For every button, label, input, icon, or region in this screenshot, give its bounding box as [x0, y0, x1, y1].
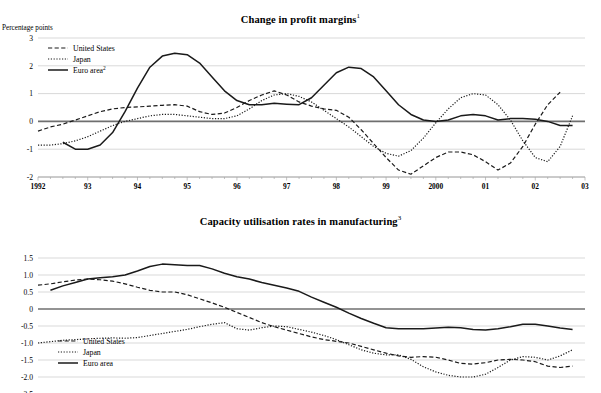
series-line-euro-area — [50, 264, 572, 330]
y-axis-tick-label: 3 — [29, 33, 33, 42]
y-axis-tick-label: -1.0 — [21, 338, 33, 347]
x-axis-tick-label: 03 — [581, 182, 589, 191]
x-axis-tick-label: 99 — [382, 182, 390, 191]
y-axis-tick-label: 0 — [29, 304, 33, 313]
panel-title-profit-margins: Change in profit margins1 — [0, 10, 601, 26]
x-axis-tick-label: 1992 — [31, 182, 46, 191]
y-axis-tick-label: -1 — [27, 144, 34, 153]
y-axis-tick-label: -1.5 — [21, 355, 33, 364]
series-line-united-states — [38, 90, 560, 173]
x-axis-tick-label: 94 — [134, 182, 142, 191]
legend-label-japan: Japan — [73, 54, 91, 63]
panel-capacity-utilisation: Capacity utilisation rates in manufactur… — [0, 212, 601, 393]
panel-title-text: Change in profit margins — [241, 14, 357, 25]
panel-title-footnote-marker: 3 — [398, 214, 402, 222]
y-axis-tick-label: -2.5 — [21, 389, 33, 392]
chart-svg-capacity-utilisation: 1.51.00.50-0.5-1.0-1.5-2.0-2.5United Sta… — [0, 228, 601, 393]
y-axis-tick-label: 1 — [29, 89, 33, 98]
legend-label-euro-area: Euro area — [83, 358, 114, 367]
cut-off-header-title — [0, 0, 601, 1]
chart-svg-profit-margins: 3210-1-21992939495969798992000010203Unit… — [0, 26, 601, 191]
x-axis-tick-label: 2000 — [428, 182, 443, 191]
y-axis-tick-label: -0.5 — [21, 321, 33, 330]
x-axis-tick-label: 96 — [233, 182, 241, 191]
series-line-euro-area — [63, 53, 573, 149]
y-axis-tick-label: 2 — [29, 61, 33, 70]
x-axis-tick-label: 97 — [283, 182, 291, 191]
y-axis-tick-label: 0 — [29, 117, 33, 126]
legend-label-japan: Japan — [83, 347, 101, 356]
legend-label-united-states: United States — [73, 43, 115, 52]
panel-title-capacity-utilisation: Capacity utilisation rates in manufactur… — [0, 212, 601, 228]
panel-title-text: Capacity utilisation rates in manufactur… — [200, 216, 398, 227]
panel-profit-margins: Change in profit margins1 Percentage poi… — [0, 10, 601, 191]
y-axis-tick-label: 0.5 — [24, 287, 34, 296]
x-axis-tick-label: 01 — [482, 182, 490, 191]
legend-label-euro-area: Euro area2 — [73, 64, 106, 74]
legend-label-united-states: United States — [83, 336, 125, 345]
y-axis-unit-label: Percentage points — [2, 24, 53, 32]
chart-page: Change in profit margins1 Percentage poi… — [0, 0, 601, 393]
x-axis-tick-label: 98 — [333, 182, 341, 191]
panel-title-footnote-marker: 1 — [357, 12, 361, 20]
x-axis-tick-label: 02 — [532, 182, 540, 191]
series-line-japan — [38, 322, 573, 376]
y-axis-tick-label: -2 — [27, 172, 34, 181]
x-axis-tick-label: 93 — [84, 182, 92, 191]
y-axis-tick-label: 1.5 — [24, 253, 34, 262]
y-axis-tick-label: 1.0 — [24, 270, 34, 279]
y-axis-tick-label: -2.0 — [21, 372, 33, 381]
x-axis-tick-label: 95 — [183, 182, 191, 191]
